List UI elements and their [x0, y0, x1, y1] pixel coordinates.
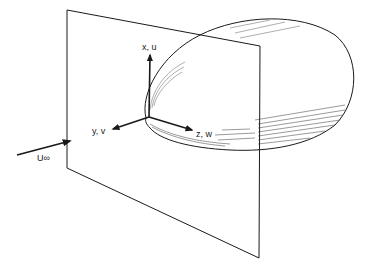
- hatch-lines-upper: [150, 62, 185, 110]
- x-axis-label: x, u: [142, 42, 157, 52]
- z-axis-arrow: [149, 117, 192, 130]
- coordinate-axes: [113, 55, 192, 130]
- y-axis-arrow: [113, 117, 149, 129]
- y-axis-label: y, v: [92, 126, 106, 136]
- z-axis-label: z, w: [196, 129, 213, 139]
- hatch-lines-top: [230, 20, 300, 38]
- ellipsoid-body: [145, 19, 354, 150]
- freestream-label: U∞: [37, 153, 50, 163]
- diagram-canvas: x, u y, v z, w U∞: [0, 0, 367, 272]
- diagram-svg: x, u y, v z, w U∞: [0, 0, 367, 272]
- x-axis-arrow: [149, 55, 150, 117]
